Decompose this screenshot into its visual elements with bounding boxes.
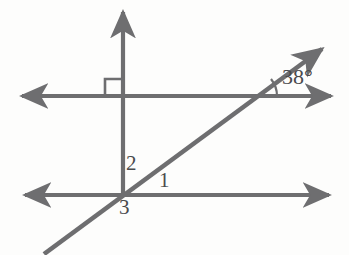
angle-label-3: 3 xyxy=(119,197,130,218)
diagonal-transversal xyxy=(44,49,322,254)
angle-label-1: 1 xyxy=(159,170,170,191)
geometry-figure: 2 1 3 38° xyxy=(0,0,349,255)
angle-label-2: 2 xyxy=(126,153,137,174)
geometry-canvas xyxy=(0,0,349,255)
angle-measure-label: 38° xyxy=(282,66,313,88)
right-angle-icon xyxy=(105,79,123,96)
